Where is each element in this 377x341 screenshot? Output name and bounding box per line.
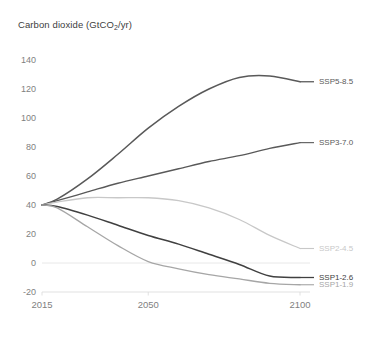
y-axis-tick-label: 20	[26, 229, 36, 239]
x-axis-tick-label: 2015	[31, 299, 52, 310]
y-axis-tick-label: 100	[21, 113, 36, 123]
co2-emissions-chart: Carbon dioxide (GtCO2/yr) -2002040608010…	[0, 0, 377, 341]
y-axis-tick-label: 60	[26, 171, 36, 181]
y-axis-tick-label: 120	[21, 84, 36, 94]
y-axis-tick-label: 40	[26, 200, 36, 210]
y-axis-tick-labels: -20020406080100120140	[21, 55, 36, 297]
y-axis-tick-label: 0	[31, 258, 36, 268]
series-label-ssp1-1.9: SSP1-1.9	[319, 280, 354, 289]
series-label-ssp3-7.0: SSP3-7.0	[319, 138, 354, 147]
x-axis-group	[42, 292, 310, 296]
x-axis-tick-labels: 201520502100	[31, 299, 310, 310]
series-label-ssp2-4.5: SSP2-4.5	[319, 244, 354, 253]
data-line-ssp5-8.5	[42, 76, 300, 205]
series-label-ssp5-8.5: SSP5-8.5	[319, 77, 354, 86]
y-axis-tick-label: 140	[21, 55, 36, 65]
data-line-ssp3-7.0	[42, 143, 300, 205]
y-axis-tick-label: 80	[26, 142, 36, 152]
y-axis-tick-label: -20	[23, 287, 36, 297]
x-axis-tick-label: 2100	[289, 299, 310, 310]
x-axis-tick-label: 2050	[138, 299, 159, 310]
series-labels-group: SSP5-8.5SSP3-7.0SSP2-4.5SSP1-2.6SSP1-1.9	[319, 77, 354, 289]
plot-area: -20020406080100120140 201520502100 SSP5-…	[0, 0, 377, 341]
data-series-group	[42, 76, 314, 285]
